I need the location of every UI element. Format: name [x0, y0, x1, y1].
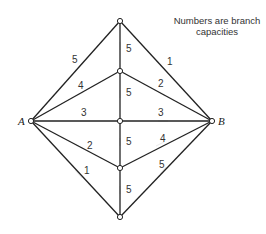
- capacity-label: 5: [126, 136, 132, 147]
- capacity-label: 2: [87, 140, 93, 151]
- node-4: [117, 165, 122, 170]
- legend-note-line1: Numbers are branch: [168, 15, 266, 26]
- node-2: [117, 68, 122, 73]
- node-top: [117, 18, 122, 23]
- capacity-label: 2: [158, 78, 164, 89]
- node-b-label: B: [218, 115, 225, 127]
- capacity-label: 1: [84, 165, 90, 176]
- capacity-label: 5: [126, 184, 132, 195]
- node-b: [209, 118, 214, 123]
- capacity-label: 4: [78, 80, 84, 91]
- legend-note: Numbers are branch capacities: [168, 15, 266, 37]
- legend-note-line2: capacities: [168, 26, 266, 37]
- capacity-label: 5: [126, 43, 132, 54]
- capacity-label: 5: [126, 87, 132, 98]
- node-center: [117, 118, 122, 123]
- node-bottom: [117, 214, 122, 219]
- node-a-label: A: [17, 115, 25, 127]
- capacity-label: 5: [72, 54, 78, 65]
- node-a: [28, 118, 33, 123]
- network-flow-diagram: A B 5 4 3 2 1 5 5 5 5 1 2 3 4 5 Numbers …: [0, 0, 266, 234]
- capacity-label: 3: [81, 107, 87, 118]
- capacity-label: 4: [160, 133, 166, 144]
- capacity-label: 3: [158, 107, 164, 118]
- capacity-label: 5: [159, 159, 165, 170]
- capacity-label: 1: [167, 56, 173, 67]
